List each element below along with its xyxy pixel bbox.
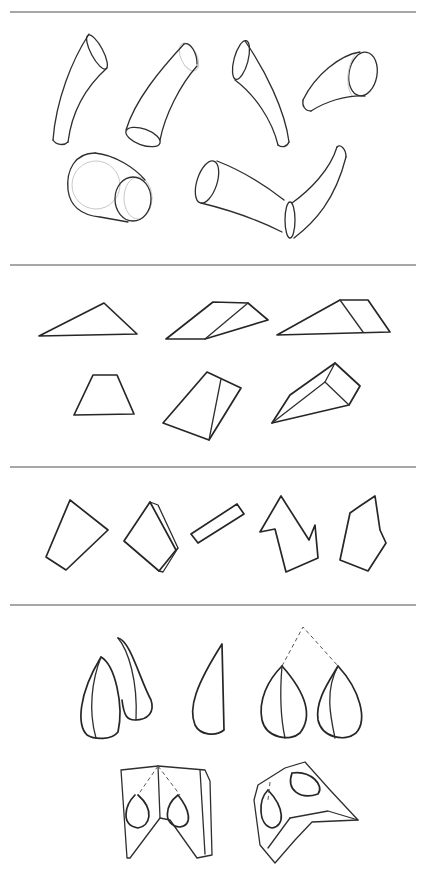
section-curved-cylinders [53,32,381,238]
folded-form-rotated [254,762,358,863]
polygon-1 [46,500,108,570]
triangle-flat [39,303,137,336]
pointed-prism [272,363,360,423]
curved-tube-1 [53,32,111,144]
tapered-cylinder-5 [68,153,152,222]
curved-horn-3 [229,39,289,147]
teardrop-pair [81,638,152,738]
folded-form-front [121,766,212,858]
curved-horn-4 [303,50,381,111]
bar-3 [191,504,244,543]
section-teardrops [81,627,362,863]
sketch-canvas [0,0,436,872]
trapezoid [74,375,134,415]
teardrops-dashed [261,627,361,738]
zigzag-4 [260,496,318,572]
section-wedges-prisms [39,300,390,440]
bent-tube-6 [191,146,346,238]
polygon-2-thick [124,502,178,572]
wedge-2 [166,302,268,339]
folded-quad [163,372,241,440]
half-teardrop [193,644,224,734]
section-flat-polygons [46,496,386,572]
sketch-sheet [0,0,436,872]
wedge-3 [277,300,390,335]
curved-tube-2 [123,40,202,151]
polygon-5 [340,496,386,571]
